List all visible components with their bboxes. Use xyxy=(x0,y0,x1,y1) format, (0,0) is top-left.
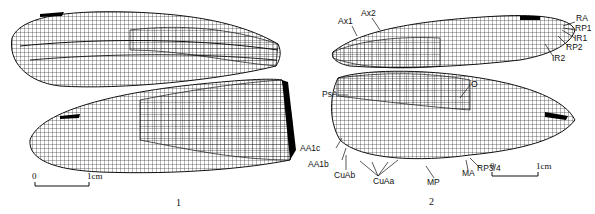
scale1-start: 0 xyxy=(32,171,37,181)
label-ax1: Ax1 xyxy=(338,17,353,26)
label-aa1b: AA1b xyxy=(308,160,329,169)
label-cuab: CuAb xyxy=(334,171,355,180)
label-rp1: RP1 xyxy=(575,24,592,33)
panel1-hindwing xyxy=(30,79,296,172)
panel1-forewing xyxy=(11,12,280,87)
label-cuaa: CuAa xyxy=(373,177,394,186)
label-aa1c: AA1c xyxy=(300,144,320,153)
panel2-forewing xyxy=(332,16,575,68)
scale2-start: 0 xyxy=(490,161,495,171)
label-psa: PsA xyxy=(322,90,338,99)
wing-venation-figure xyxy=(0,0,595,214)
scale2-end: 1cm xyxy=(536,161,552,171)
scale1-end: 1cm xyxy=(87,171,103,181)
scale-bar-1 xyxy=(35,182,89,186)
figure-number-1: 1 xyxy=(176,197,181,208)
panel2-hindwing xyxy=(332,71,576,158)
label-mp: MP xyxy=(427,178,440,187)
label-ma: MA xyxy=(462,169,475,178)
label-o: O xyxy=(471,80,478,89)
label-ax2: Ax2 xyxy=(361,9,376,18)
label-rp2: RP2 xyxy=(566,43,583,52)
figure-number-2: 2 xyxy=(429,196,434,207)
label-ir2: IR2 xyxy=(552,54,565,63)
label-ra: RA xyxy=(576,14,588,23)
label-rp34: RP3/4 xyxy=(477,164,501,173)
